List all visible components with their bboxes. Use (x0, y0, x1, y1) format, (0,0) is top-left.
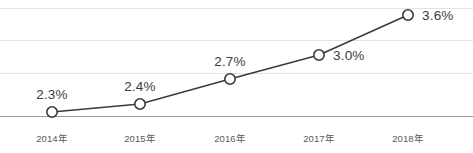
data-point-marker[interactable] (403, 10, 413, 20)
x-axis-tick-label: 2018年 (363, 131, 453, 145)
data-point-label: 2.7% (214, 54, 246, 69)
data-point-label: 2.3% (36, 87, 68, 102)
data-point-marker[interactable] (47, 107, 57, 117)
x-axis-tick-label: 2015年 (95, 131, 185, 145)
data-point-marker[interactable] (225, 74, 235, 84)
data-point-label: 3.6% (422, 8, 454, 23)
line-chart: 2.3%2.4%2.7%3.0%3.6% 2014年2015年2016年2017… (0, 0, 473, 153)
plot-area: 2.3%2.4%2.7%3.0%3.6% (0, 0, 473, 122)
x-axis-tick-label: 2016年 (185, 131, 275, 145)
x-axis: 2014年2015年2016年2017年2018年 (0, 122, 473, 153)
x-axis-tick-label: 2017年 (274, 131, 364, 145)
data-point-marker[interactable] (135, 99, 145, 109)
x-axis-tick-label: 2014年 (7, 131, 97, 145)
data-point-label: 3.0% (333, 48, 365, 63)
data-point-marker[interactable] (314, 50, 324, 60)
data-point-label: 2.4% (124, 79, 156, 94)
